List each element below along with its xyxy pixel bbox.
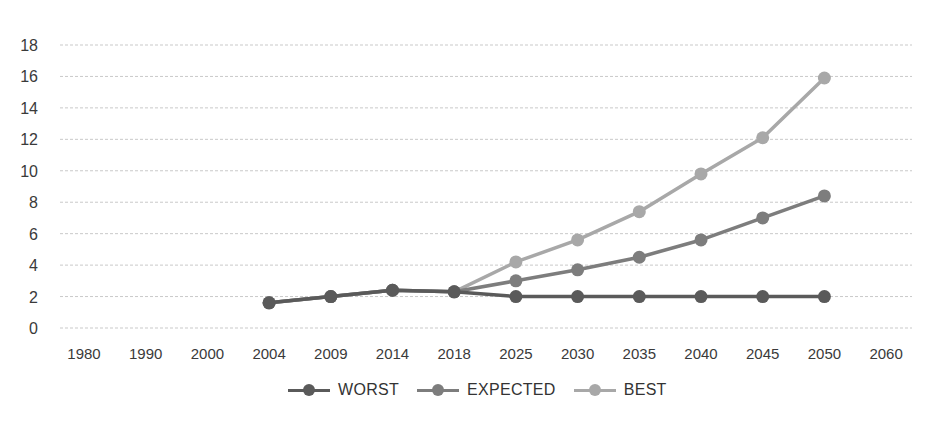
data-point: [695, 290, 708, 303]
line-chart: 024681012141618 198019902000200420092014…: [0, 0, 926, 424]
x-tick-label: 2014: [376, 345, 409, 362]
data-point: [633, 290, 646, 303]
x-tick-label: 2050: [808, 345, 841, 362]
legend-label: WORST: [338, 381, 399, 399]
legend-marker-icon: [417, 384, 459, 396]
legend-item-worst: WORST: [288, 381, 399, 399]
y-tick-label: 6: [29, 226, 38, 243]
data-point: [695, 167, 708, 180]
data-point: [633, 251, 646, 264]
y-tick-label: 8: [29, 194, 38, 211]
x-tick-label: 2040: [684, 345, 717, 362]
data-point: [695, 233, 708, 246]
y-tick-label: 18: [20, 37, 38, 54]
y-tick-label: 16: [20, 68, 38, 85]
x-axis: 1980199020002004200920142018202520302035…: [67, 345, 902, 362]
series-lines: [263, 72, 831, 310]
y-tick-label: 4: [29, 257, 38, 274]
y-tick-label: 2: [29, 289, 38, 306]
x-tick-label: 2025: [499, 345, 532, 362]
y-tick-label: 14: [20, 100, 38, 117]
x-tick-label: 2035: [623, 345, 656, 362]
x-tick-label: 1990: [129, 345, 162, 362]
x-tick-label: 2060: [869, 345, 902, 362]
data-point: [571, 233, 584, 246]
legend-dot: [303, 384, 315, 396]
data-point: [509, 290, 522, 303]
data-point: [818, 189, 831, 202]
data-point: [386, 284, 399, 297]
x-tick-label: 2018: [438, 345, 471, 362]
x-tick-label: 1980: [67, 345, 100, 362]
data-point: [818, 290, 831, 303]
data-point: [756, 131, 769, 144]
y-tick-label: 0: [29, 320, 38, 337]
data-point: [324, 290, 337, 303]
data-point: [818, 72, 831, 85]
legend-label: EXPECTED: [467, 381, 556, 399]
legend-label: BEST: [624, 381, 667, 399]
data-point: [448, 285, 461, 298]
y-tick-label: 12: [20, 131, 38, 148]
legend-marker-icon: [574, 384, 616, 396]
data-point: [571, 290, 584, 303]
data-point: [509, 255, 522, 268]
data-point: [756, 290, 769, 303]
legend-marker-icon: [288, 384, 330, 396]
y-axis: 024681012141618: [20, 37, 38, 337]
x-tick-label: 2000: [191, 345, 224, 362]
x-tick-label: 2030: [561, 345, 594, 362]
data-point: [571, 263, 584, 276]
data-point: [263, 296, 276, 309]
data-point: [509, 274, 522, 287]
series-worst: [263, 284, 831, 310]
series-line: [269, 78, 824, 303]
data-point: [756, 211, 769, 224]
legend-dot: [589, 384, 601, 396]
x-tick-label: 2004: [252, 345, 285, 362]
x-tick-label: 2009: [314, 345, 347, 362]
legend-item-expected: EXPECTED: [417, 381, 556, 399]
chart-legend: WORST EXPECTED BEST: [288, 381, 667, 399]
legend-item-best: BEST: [574, 381, 667, 399]
y-tick-label: 10: [20, 163, 38, 180]
data-point: [633, 205, 646, 218]
legend-dot: [432, 384, 444, 396]
x-tick-label: 2045: [746, 345, 779, 362]
